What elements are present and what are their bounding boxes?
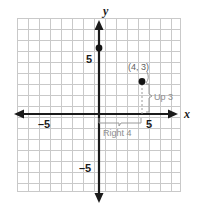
- x-tick-label-positive-5: 5: [146, 118, 152, 130]
- graph-canvas: y x –5 5 5 –5 (4, 3) Right 4 Up 3: [0, 0, 198, 205]
- y-tick-label-positive-5: 5: [86, 53, 92, 65]
- y-axis-label: y: [101, 4, 109, 18]
- y-axis-arrow-up: [95, 20, 104, 30]
- data-point-y-axis[interactable]: [96, 45, 103, 52]
- y-axis-arrow-down: [95, 193, 104, 203]
- up-3-label: Up 3: [154, 92, 173, 102]
- y-tick-label-negative-5: –5: [79, 162, 91, 174]
- up-3-brace: [146, 84, 152, 112]
- point-coordinate-label: (4, 3): [128, 62, 149, 72]
- right-4-label: Right 4: [103, 128, 132, 138]
- coordinate-plane-graph: y x –5 5 5 –5 (4, 3) Right 4 Up 3: [0, 0, 198, 205]
- data-point-4-3[interactable]: [139, 78, 146, 85]
- x-axis-label: x: [183, 107, 190, 121]
- x-tick-label-negative-5: –5: [38, 118, 50, 130]
